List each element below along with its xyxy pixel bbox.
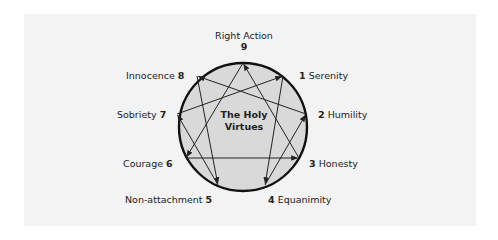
label-name: Humility bbox=[328, 109, 368, 120]
label-point-1: 1 Serenity bbox=[299, 70, 348, 81]
center-title-line1: The Holy bbox=[213, 109, 275, 121]
label-number: 6 bbox=[166, 158, 173, 169]
label-number: 9 bbox=[241, 41, 248, 52]
center-title-line2: Virtues bbox=[213, 121, 275, 133]
label-name: Courage bbox=[123, 158, 163, 169]
label-number: 1 bbox=[299, 70, 306, 81]
label-number: 7 bbox=[160, 109, 167, 120]
label-point-3: 3 Honesty bbox=[309, 158, 358, 169]
label-point-6: Courage 6 bbox=[123, 158, 173, 169]
label-number: 2 bbox=[318, 109, 325, 120]
center-title: The Holy Virtues bbox=[213, 109, 275, 133]
label-name: Honesty bbox=[319, 158, 358, 169]
label-point-7: Sobriety 7 bbox=[117, 109, 166, 120]
label-point-9: Right Action 9 bbox=[213, 30, 275, 52]
label-name: Non-attachment bbox=[125, 194, 203, 205]
label-number: 4 bbox=[268, 194, 275, 205]
label-name: Sobriety bbox=[117, 109, 157, 120]
label-name: Equanimity bbox=[278, 194, 332, 205]
label-point-5: Non-attachment 5 bbox=[125, 194, 212, 205]
label-point-2: 2 Humility bbox=[318, 109, 367, 120]
label-number: 5 bbox=[206, 194, 213, 205]
label-number: 3 bbox=[309, 158, 316, 169]
label-name: Right Action bbox=[213, 30, 275, 41]
label-number: 8 bbox=[178, 70, 185, 81]
label-name: Innocence bbox=[126, 70, 175, 81]
label-point-8: Innocence 8 bbox=[126, 70, 184, 81]
label-name: Serenity bbox=[309, 70, 348, 81]
label-point-4: 4 Equanimity bbox=[268, 194, 331, 205]
